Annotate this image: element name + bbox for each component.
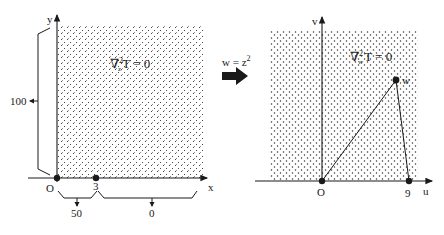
u-axis-label: u bbox=[423, 186, 429, 197]
left-edge-brace bbox=[38, 28, 50, 175]
point-9-label: 9 bbox=[405, 188, 411, 199]
bottom-brace-beyond-3 bbox=[98, 191, 197, 198]
origin-point bbox=[54, 175, 60, 181]
z-plane bbox=[28, 15, 207, 206]
origin-label: O bbox=[46, 183, 54, 194]
w-plane-shaded-region bbox=[270, 30, 418, 180]
left-edge-value: 100 bbox=[10, 96, 27, 107]
v-axis-label: v bbox=[312, 16, 318, 27]
mapping-label: w = z2 bbox=[222, 55, 251, 68]
point-w bbox=[393, 77, 400, 84]
point-3-label: 3 bbox=[93, 181, 99, 192]
point-9 bbox=[406, 178, 412, 184]
z-plane-shaded-region bbox=[57, 25, 205, 178]
w-plane bbox=[255, 17, 432, 184]
bottom-value-beyond-3: 0 bbox=[149, 208, 155, 219]
mapping-arrow-icon bbox=[222, 67, 248, 85]
conformal-map-diagram bbox=[0, 0, 444, 235]
bottom-value-0-to-3: 50 bbox=[71, 208, 82, 219]
x-axis-label: x bbox=[208, 182, 214, 193]
point-w-label: w bbox=[402, 75, 410, 86]
w-origin-point bbox=[319, 178, 325, 184]
y-axis-label: y bbox=[47, 14, 53, 25]
w-origin-label: O bbox=[317, 187, 325, 198]
bottom-brace-0-to-3 bbox=[58, 191, 97, 198]
w-plane-equation: ∇2wT = 0 bbox=[350, 50, 392, 66]
z-plane-equation: ∇2zT = 0 bbox=[110, 57, 150, 73]
